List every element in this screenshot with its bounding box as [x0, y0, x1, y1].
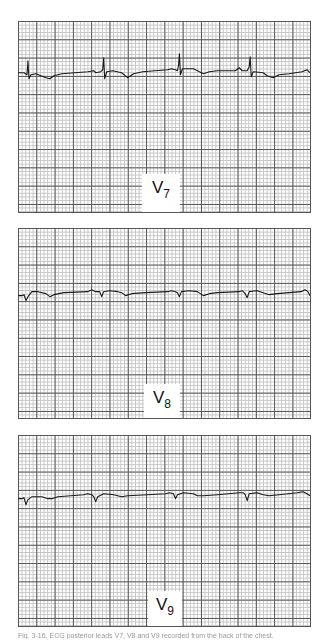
lead-label-v7: V7: [142, 174, 180, 212]
lead-number: 7: [163, 187, 170, 201]
lead-label-v9: V9: [148, 591, 182, 626]
lead-letter: V: [152, 178, 163, 197]
ecg-panel-v9: V9: [18, 435, 311, 627]
lead-number: 8: [164, 397, 171, 411]
lead-letter: V: [153, 388, 164, 407]
ecg-panel-v8: V8: [18, 228, 311, 419]
lead-letter: V: [156, 595, 167, 614]
ecg-panel-v7: V7: [18, 21, 311, 213]
lead-label-v8: V8: [144, 384, 180, 418]
lead-number: 9: [167, 604, 174, 618]
figure-caption: Fig. 3-16. ECG posterior leads V7, V8 an…: [18, 632, 308, 639]
